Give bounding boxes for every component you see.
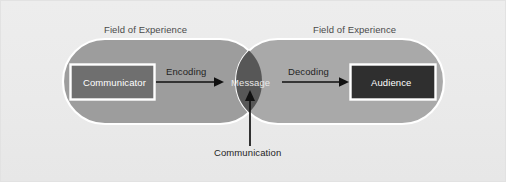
node-message-label: Message [231, 78, 270, 88]
node-communicator-label: Communicator [83, 78, 146, 88]
arrow-communication [245, 90, 255, 146]
edge-communication-label: Communication [214, 148, 281, 158]
diagram-canvas: Field of Experience Field of Experience … [0, 0, 506, 182]
edge-encoding-label: Encoding [166, 67, 206, 77]
diagram-stage: Field of Experience Field of Experience … [0, 0, 506, 182]
arrow-decoding [282, 77, 349, 87]
field-of-experience-left-label: Field of Experience [104, 25, 187, 35]
edge-decoding-label: Decoding [288, 67, 329, 77]
field-of-experience-right-label: Field of Experience [313, 25, 396, 35]
arrow-encoding [156, 77, 224, 87]
arrowhead-encoding-icon [214, 77, 224, 87]
node-audience-label: Audience [371, 78, 411, 88]
arrowhead-decoding-icon [339, 77, 349, 87]
arrowhead-communication-icon [245, 90, 255, 101]
